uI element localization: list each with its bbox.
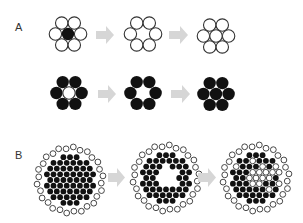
filled-dot — [90, 183, 96, 189]
filled-dot — [80, 189, 86, 195]
filled-dot — [84, 160, 90, 166]
open-dot — [266, 187, 272, 193]
open-circle — [68, 17, 80, 29]
open-dot — [260, 175, 266, 181]
filled-dot — [230, 181, 236, 187]
border-open-dot — [256, 142, 262, 148]
open-dot — [260, 164, 266, 170]
filled-dot — [44, 183, 50, 189]
filled-dot — [253, 198, 259, 204]
border-open-dot — [45, 200, 51, 206]
open-circle — [49, 28, 61, 40]
filled-dot — [250, 192, 256, 198]
center-filled-circle — [62, 28, 74, 40]
filled-dot — [84, 183, 90, 189]
diagram: A B — [0, 0, 303, 223]
open-dot — [276, 181, 282, 187]
filled-dot — [61, 154, 67, 160]
border-open-dot — [70, 144, 76, 150]
open-circle — [216, 19, 228, 31]
disc-b-stage3 — [220, 142, 292, 214]
filled-circle — [143, 76, 155, 88]
filled-dot — [153, 181, 159, 187]
border-open-dot — [152, 144, 158, 150]
filled-dot — [157, 152, 163, 158]
filled-dot — [253, 164, 259, 170]
border-open-dot — [94, 193, 100, 199]
filled-dot — [273, 187, 279, 193]
filled-dot — [273, 175, 279, 181]
filled-dot — [61, 166, 67, 172]
border-open-dot — [167, 206, 173, 212]
border-open-dot — [236, 149, 242, 155]
filled-dot — [176, 175, 182, 181]
filled-dot — [84, 171, 90, 177]
cluster-a-row1-stage1 — [49, 17, 87, 51]
border-open-dot — [249, 144, 255, 150]
filled-dot — [263, 181, 269, 187]
filled-dot — [256, 158, 262, 164]
filled-dot — [173, 158, 179, 164]
filled-dot — [260, 152, 266, 158]
border-open-dot — [195, 186, 201, 192]
filled-dot — [243, 158, 249, 164]
filled-dot — [57, 171, 63, 177]
filled-dot — [180, 169, 186, 175]
filled-dot — [183, 164, 189, 170]
border-open-dot — [222, 172, 228, 178]
filled-dot — [57, 194, 63, 200]
border-open-dot — [220, 179, 226, 185]
border-open-dot — [180, 147, 186, 153]
border-open-dot — [153, 205, 159, 211]
border-open-dot — [77, 147, 83, 153]
border-open-dot — [139, 152, 145, 158]
filled-dot — [51, 194, 57, 200]
filled-dot — [237, 169, 243, 175]
filled-dot — [90, 171, 96, 177]
open-circle — [204, 19, 216, 31]
filled-dot — [186, 181, 192, 187]
filled-dot — [77, 171, 83, 177]
border-open-dot — [100, 173, 106, 179]
open-circle — [143, 39, 155, 51]
filled-dot — [74, 189, 80, 195]
open-dot — [266, 175, 272, 181]
filled-dot — [270, 181, 276, 187]
border-open-dot — [174, 206, 180, 212]
open-circle — [222, 30, 234, 42]
filled-dot — [47, 189, 53, 195]
filled-dot — [77, 194, 83, 200]
filled-dot — [143, 164, 149, 170]
cluster-a-row2-stage3 — [197, 77, 235, 111]
border-open-dot — [36, 174, 42, 180]
cluster-a-row1-stage3 — [197, 19, 235, 53]
filled-dot — [237, 158, 243, 164]
filled-dot — [176, 164, 182, 170]
border-open-dot — [250, 208, 256, 214]
filled-dot — [163, 198, 169, 204]
filled-dot — [247, 164, 253, 170]
open-circle — [74, 28, 86, 40]
filled-circle — [57, 98, 69, 110]
filled-dot — [247, 187, 253, 193]
border-open-dot — [50, 205, 56, 211]
filled-dot — [157, 164, 163, 170]
filled-dot — [170, 152, 176, 158]
filled-dot — [67, 189, 73, 195]
filled-dot — [67, 166, 73, 172]
open-circle — [68, 39, 80, 51]
filled-dot — [170, 187, 176, 193]
filled-dot — [61, 200, 67, 206]
panel-b — [34, 142, 292, 216]
border-open-dot — [263, 145, 269, 151]
filled-dot — [237, 181, 243, 187]
border-open-dot — [231, 198, 237, 204]
filled-dot — [180, 181, 186, 187]
filled-dot — [153, 158, 159, 164]
filled-dot — [230, 169, 236, 175]
open-circle — [131, 39, 143, 51]
filled-dot — [61, 177, 67, 183]
border-open-dot — [141, 198, 147, 204]
open-dot — [250, 181, 256, 187]
panel-label-a: A — [15, 21, 23, 33]
